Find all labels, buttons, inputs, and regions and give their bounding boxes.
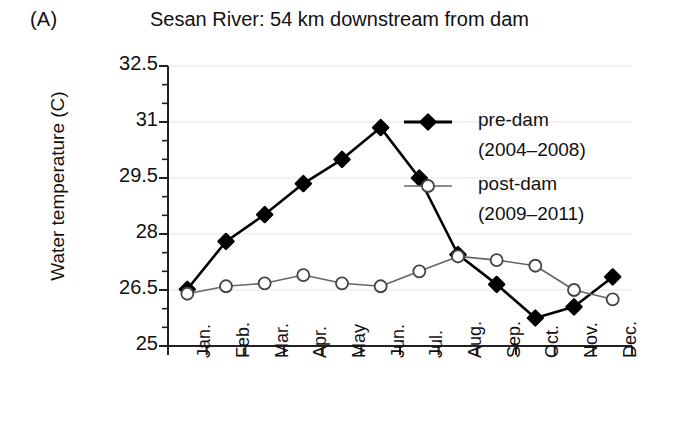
chart-title: Sesan River: 54 km downstream from dam	[150, 8, 620, 31]
x-tick-label: Apr.	[310, 326, 331, 358]
x-tick-label: Jun.	[388, 324, 409, 358]
data-point-marker-circle	[413, 265, 425, 277]
legend-sublabel-pre-dam: (2004–2008)	[478, 139, 586, 161]
data-point-marker-circle	[259, 277, 271, 289]
x-tick-label: Jul.	[426, 330, 447, 358]
data-point-marker-circle	[181, 288, 193, 300]
x-tick-label: Mar.	[272, 323, 293, 358]
legend-label-post-dam: post-dam	[478, 173, 557, 195]
data-point-marker-circle	[422, 180, 434, 192]
data-point-marker-circle	[491, 254, 503, 266]
data-point-marker-circle	[336, 277, 348, 289]
data-point-marker-circle	[607, 293, 619, 305]
legend-markers	[404, 115, 452, 193]
x-tick-label: May	[349, 324, 370, 358]
series-line	[187, 256, 612, 299]
y-tick-label: 32.5	[119, 52, 158, 75]
y-tick-label: 31	[136, 108, 158, 131]
x-tick-label: Oct.	[542, 325, 563, 358]
gridlines	[168, 66, 632, 290]
figure-panel-a: (A) Sesan River: 54 km downstream from d…	[0, 0, 688, 440]
x-tick-label: Nov.	[581, 322, 602, 358]
data-point-marker-circle	[452, 250, 464, 262]
data-point-marker-diamond	[421, 115, 436, 130]
x-tick-label: Dec.	[620, 321, 641, 358]
y-tick-label: 29.5	[119, 164, 158, 187]
data-point-marker-circle	[297, 269, 309, 281]
panel-label: (A)	[30, 8, 57, 31]
legend-label-pre-dam: pre-dam	[478, 109, 549, 131]
x-tick-label: Sep.	[504, 321, 525, 358]
legend-sublabel-post-dam: (2009–2011)	[478, 203, 584, 225]
data-point-marker-circle	[568, 284, 580, 296]
x-tick-label: Jan.	[194, 324, 215, 358]
plot-area	[0, 0, 688, 440]
y-tick-label: 26.5	[119, 276, 158, 299]
data-point-marker-circle	[375, 280, 387, 292]
series-post-dam	[181, 250, 618, 305]
data-point-marker-circle	[220, 280, 232, 292]
y-tick-label: 28	[136, 220, 158, 243]
data-point-marker-circle	[529, 260, 541, 272]
y-tick-label: 25	[136, 332, 158, 355]
y-axis-label: Water temperature (C)	[47, 36, 69, 336]
x-tick-label: Feb.	[233, 322, 254, 358]
x-tick-label: Aug.	[465, 321, 486, 358]
